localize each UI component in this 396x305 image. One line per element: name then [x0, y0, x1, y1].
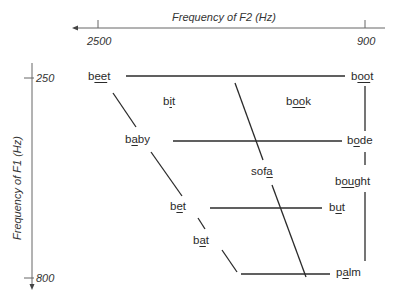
line-bat-palm-diag — [222, 250, 237, 272]
line-baby-bet — [151, 152, 182, 196]
vowel-label-baby: baby — [125, 134, 150, 146]
vowel-label-bat: bat — [193, 235, 209, 247]
vowel-label-book: book — [286, 96, 311, 108]
line-sofa-lower — [272, 185, 306, 277]
vowel-label-palm: palm — [336, 267, 361, 279]
x-tick-label-900: 900 — [357, 36, 375, 47]
line-bet-bat — [198, 218, 205, 229]
vowel-label-sofa: sofa — [251, 166, 273, 178]
vowel-label-boot: boot — [351, 71, 373, 83]
line-sofa-upper — [235, 83, 263, 160]
line-beet-baby — [113, 93, 136, 127]
vowel-chart-lines — [0, 0, 396, 305]
y-tick-label-250: 250 — [36, 73, 54, 84]
x-axis-title: Frequency of F2 (Hz) — [172, 12, 276, 23]
vowel-label-bought: bought — [335, 176, 370, 188]
vowel-space-lines — [113, 76, 365, 277]
y-tick-label-800: 800 — [36, 273, 54, 284]
vowel-label-beet: beet — [88, 71, 110, 83]
x-tick-label-2500: 2500 — [87, 36, 111, 47]
vowel-label-bode: bode — [347, 135, 373, 147]
vowel-label-but: but — [329, 202, 345, 214]
x-axis-arrowhead — [72, 26, 78, 31]
y-axis-arrowhead — [30, 284, 35, 290]
y-axis-title: Frequency of F1 (Hz) — [12, 136, 23, 240]
y-axis — [24, 63, 35, 290]
vowel-label-bet: bet — [170, 201, 186, 213]
vowel-label-bit: bit — [163, 96, 175, 108]
